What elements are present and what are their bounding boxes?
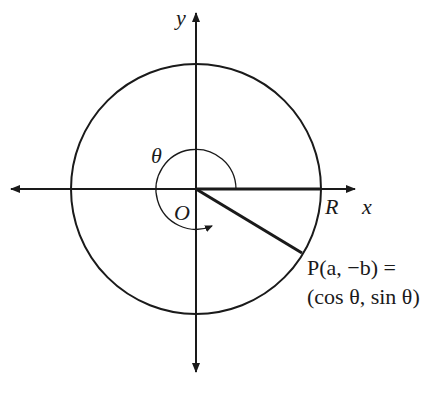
point-p-label: P(a, −b) = [307,255,396,280]
point-r-label: R [324,194,339,219]
origin-label: O [174,200,190,225]
unit-circle-diagram: y x O R θ P(a, −b) = (cos θ, sin θ) [0,0,442,401]
angle-theta-label: θ [151,143,162,168]
point-p-coordinates: (cos θ, sin θ) [307,284,420,309]
radius-op [196,189,302,253]
y-axis-label: y [174,5,186,30]
x-axis-label: x [361,194,372,219]
